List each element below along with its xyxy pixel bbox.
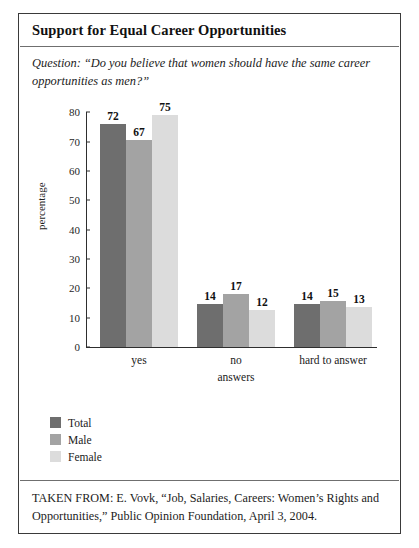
x-axis-category-label: no	[183, 354, 289, 366]
legend-swatch	[50, 417, 61, 428]
source-citation: TAKEN FROM: E. Vovk, “Job, Salaries, Car…	[32, 490, 387, 525]
legend-label: Female	[68, 451, 102, 463]
title-area: Support for Equal Career Opportunities	[19, 14, 400, 46]
x-axis-line	[86, 347, 377, 348]
question-text: Question: “Do you believe that women sho…	[32, 55, 386, 90]
bar: 75	[152, 115, 178, 347]
legend-swatch	[50, 451, 61, 462]
y-axis-tick-label: 80	[69, 106, 86, 118]
y-axis-tick-label: 60	[69, 165, 86, 177]
y-axis-tick-label: 30	[69, 253, 86, 265]
chart-legend: TotalMaleFemale	[50, 414, 102, 465]
legend-label: Male	[68, 434, 92, 446]
bar: 14	[294, 304, 320, 347]
bar-value-label: 17	[223, 280, 249, 294]
bar-fill	[197, 304, 223, 347]
y-axis-tick-label: 40	[69, 224, 86, 236]
bar-value-label: 15	[320, 287, 346, 301]
legend-item: Female	[50, 448, 102, 465]
bar-groups: 726775141712141513	[87, 112, 377, 347]
x-axis-category-label: yes	[86, 354, 192, 366]
y-axis-tick-label: 50	[69, 194, 86, 206]
legend-item: Total	[50, 414, 102, 431]
y-axis-tick-label: 70	[69, 136, 86, 148]
x-axis-label: answers	[183, 371, 289, 383]
y-axis-label: percentage	[35, 183, 47, 231]
y-axis-tick-label: 10	[69, 312, 86, 324]
bar: 14	[197, 304, 223, 347]
bar: 72	[100, 124, 126, 347]
bar-value-label: 14	[294, 290, 320, 304]
bar-fill	[126, 140, 152, 348]
bar-fill	[152, 115, 178, 347]
bar-value-label: 13	[346, 293, 372, 307]
bar-fill	[100, 124, 126, 347]
x-axis-category-label: hard to answer	[280, 354, 386, 366]
y-axis-tick-label: 20	[69, 282, 86, 294]
bar: 15	[320, 301, 346, 347]
bar-fill	[223, 294, 249, 347]
question-area: Question: “Do you believe that women sho…	[19, 47, 400, 96]
bar-value-label: 14	[197, 290, 223, 304]
bar-fill	[346, 307, 372, 347]
page-title: Support for Equal Career Opportunities	[32, 23, 387, 39]
y-axis-tick-label: 0	[75, 341, 87, 353]
bar: 12	[249, 310, 275, 347]
bar: 13	[346, 307, 372, 347]
bar-value-label: 12	[249, 296, 275, 310]
bar-value-label: 72	[100, 110, 126, 124]
bar-fill	[294, 304, 320, 347]
bar-fill	[249, 310, 275, 347]
bar-value-label: 67	[126, 126, 152, 140]
bar-chart: percentage 01020304050607080 72677514171…	[19, 96, 402, 396]
legend-item: Male	[50, 431, 102, 448]
legend-swatch	[50, 434, 61, 445]
bar: 17	[223, 294, 249, 347]
footer-divider	[20, 480, 399, 481]
bar-fill	[320, 301, 346, 347]
source-text: TAKEN FROM: E. Vovk, “Job, Salaries, Car…	[32, 490, 387, 525]
bar-value-label: 75	[152, 101, 178, 115]
bar: 67	[126, 140, 152, 348]
legend-label: Total	[68, 417, 91, 429]
figure-container: Support for Equal Career Opportunities Q…	[18, 13, 401, 534]
